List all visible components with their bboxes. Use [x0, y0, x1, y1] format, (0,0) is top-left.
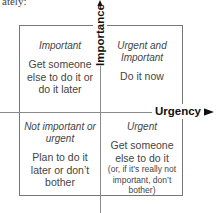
- quadrant-action: Get someone else to do it: [102, 139, 182, 164]
- arrow-right-icon: [203, 108, 214, 116]
- quadrant-title: Urgent and Important: [102, 40, 182, 64]
- quadrant-action: Get someone else to do it or do it later: [21, 58, 99, 96]
- quadrant-title: Important: [21, 40, 99, 52]
- quadrant-urgent-and-important: Urgent and Important Do it now: [102, 40, 182, 83]
- urgency-axis-label: Urgency: [152, 104, 204, 119]
- quadrant-action: Plan to do it later or don’t bother: [21, 151, 99, 189]
- quadrant-not-important-or-urgent: Not important or urgent Plan to do it la…: [21, 121, 99, 189]
- quadrant-urgent: Urgent Get someone else to do it (or, if…: [102, 121, 182, 196]
- quadrant-note: (or, if it’s really not important, don’t…: [102, 164, 182, 196]
- quadrant-title: Urgent: [102, 121, 182, 133]
- quadrant-important: Important Get someone else to do it or d…: [21, 40, 99, 96]
- quadrant-action: Do it now: [102, 70, 182, 83]
- cropped-caption-text: ately:: [2, 0, 26, 7]
- quadrant-title: Not important or urgent: [21, 121, 99, 145]
